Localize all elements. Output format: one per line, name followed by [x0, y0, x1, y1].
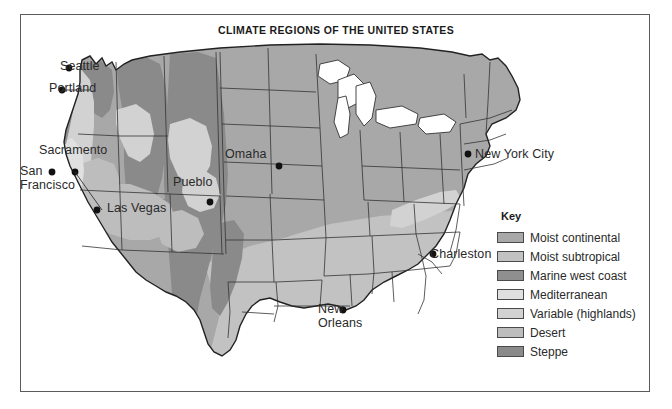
- legend-swatch-desert: [497, 327, 524, 338]
- city-label-new-york-city: New York City: [475, 148, 554, 161]
- legend-swatch-marine-west-coast: [497, 270, 524, 281]
- legend-swatch-moist-subtropical: [497, 251, 524, 262]
- city-dot-new-york-city: [465, 151, 472, 158]
- city-dot-omaha: [276, 163, 283, 170]
- city-label-sacramento: Sacramento: [39, 144, 107, 157]
- map-legend: Key Moist continental Moist subtropical …: [497, 210, 647, 361]
- legend-item-steppe: Steppe: [497, 342, 647, 361]
- city-label-portland: Portland: [49, 82, 96, 95]
- city-label-new-orleans: New Orleans: [318, 302, 362, 330]
- legend-item-variable-highlands: Variable (highlands): [497, 304, 647, 323]
- legend-swatch-mediterranean: [497, 289, 524, 300]
- legend-swatch-variable-highlands: [497, 308, 524, 319]
- legend-title: Key: [501, 210, 647, 222]
- city-label-charleston: Charleston: [430, 248, 491, 261]
- legend-item-marine-west-coast: Marine west coast: [497, 266, 647, 285]
- legend-label-mediterranean: Mediterranean: [530, 288, 607, 302]
- city-label-san-francisco: San Francisco: [20, 164, 75, 192]
- city-dot-las-vegas: [94, 207, 101, 214]
- climate-map-figure: CLIMATE REGIONS OF THE UNITED STATES: [0, 0, 672, 409]
- legend-label-steppe: Steppe: [530, 345, 568, 359]
- legend-item-mediterranean: Mediterranean: [497, 285, 647, 304]
- legend-item-moist-continental: Moist continental: [497, 228, 647, 247]
- city-dot-pueblo: [207, 199, 214, 206]
- city-label-las-vegas: Las Vegas: [107, 202, 166, 215]
- legend-label-variable-highlands: Variable (highlands): [530, 307, 636, 321]
- legend-item-desert: Desert: [497, 323, 647, 342]
- city-label-seattle: Seattle: [60, 60, 100, 73]
- legend-label-moist-subtropical: Moist subtropical: [530, 250, 620, 264]
- city-label-pueblo: Pueblo: [173, 176, 213, 189]
- legend-item-moist-subtropical: Moist subtropical: [497, 247, 647, 266]
- legend-label-marine-west-coast: Marine west coast: [530, 269, 627, 283]
- legend-label-desert: Desert: [530, 326, 565, 340]
- legend-label-moist-continental: Moist continental: [530, 231, 620, 245]
- city-label-omaha: Omaha: [225, 148, 267, 161]
- legend-swatch-moist-continental: [497, 232, 524, 243]
- legend-swatch-steppe: [497, 346, 524, 357]
